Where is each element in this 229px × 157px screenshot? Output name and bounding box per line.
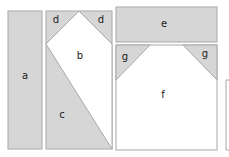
label-g-left: g — [122, 52, 128, 62]
cutting-diagram — [0, 0, 229, 157]
label-g-right: g — [202, 49, 208, 59]
label-f: f — [161, 90, 165, 100]
label-e: e — [161, 19, 167, 29]
label-a: a — [22, 71, 28, 81]
partial-panel-edge — [226, 80, 229, 150]
label-d-left: d — [53, 15, 59, 25]
label-c: c — [59, 110, 65, 120]
label-b: b — [77, 51, 83, 61]
label-d-right: d — [98, 15, 104, 25]
